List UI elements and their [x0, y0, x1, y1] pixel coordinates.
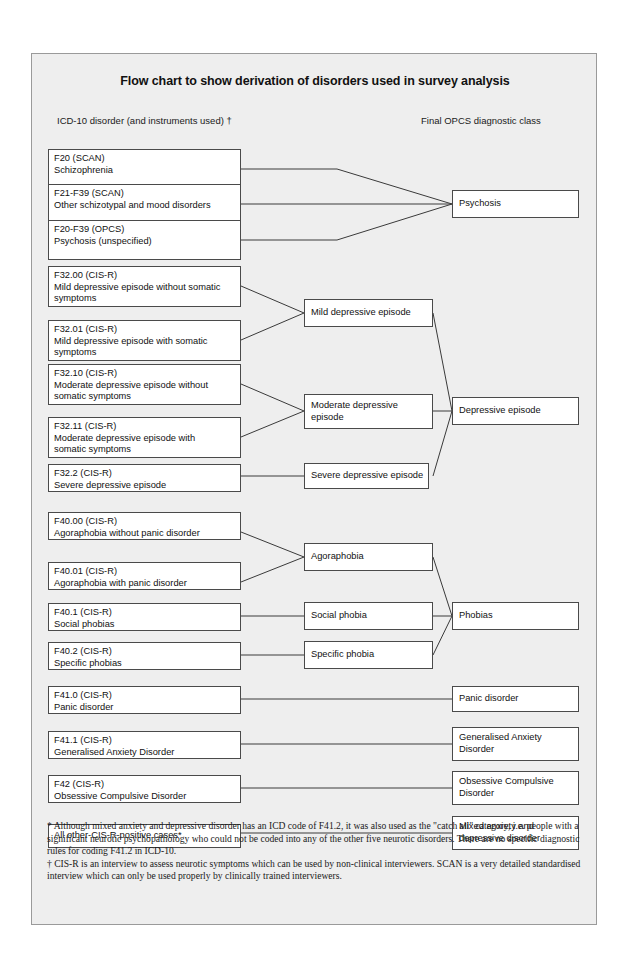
node-f4000[interactable]: F40.00 (CIS-R) Agoraphobia without panic…	[48, 512, 241, 540]
node-severe-depressive-episode[interactable]: Severe depressive episode	[304, 463, 429, 489]
figure-panel: Flow chart to show derivation of disorde…	[31, 53, 597, 925]
node-f42[interactable]: F42 (CIS-R) Obsessive Compulsive Disorde…	[48, 775, 241, 803]
node-label: Panic disorder	[459, 693, 518, 705]
node-f21f39[interactable]: F21-F39 (SCAN) Other schizotypal and moo…	[48, 184, 241, 224]
node-label: Agoraphobia	[311, 551, 364, 563]
node-label: Severe depressive episode	[311, 470, 423, 482]
node-f401[interactable]: F40.1 (CIS-R) Social phobias	[48, 603, 241, 631]
node-f20f39[interactable]: F20-F39 (OPCS) Psychosis (unspecified)	[48, 220, 241, 260]
node-f411[interactable]: F41.1 (CIS-R) Generalised Anxiety Disord…	[48, 731, 241, 759]
node-label: Generalised Anxiety Disorder	[459, 732, 542, 755]
node-f322[interactable]: F32.2 (CIS-R) Severe depressive episode	[48, 464, 241, 492]
node-f3211[interactable]: F32.11 (CIS-R) Moderate depressive episo…	[48, 417, 241, 458]
node-moderate-depressive-episode[interactable]: Moderate depressive episode	[304, 394, 433, 429]
node-psychosis[interactable]: Psychosis	[452, 190, 579, 218]
node-label: Moderate depressive episode	[311, 400, 398, 423]
node-label: Specific phobia	[311, 649, 374, 661]
node-f402[interactable]: F40.2 (CIS-R) Specific phobias	[48, 642, 241, 670]
node-label: Phobias	[459, 610, 493, 622]
node-f3210[interactable]: F32.10 (CIS-R) Moderate depressive episo…	[48, 364, 241, 405]
page-title: Flow chart to show derivation of disorde…	[32, 74, 598, 88]
column-header-left: ICD-10 disorder (and instruments used) †	[57, 115, 232, 126]
node-f3200[interactable]: F32.00 (CIS-R) Mild depressive episode w…	[48, 266, 241, 307]
column-header-right: Final OPCS diagnostic class	[421, 115, 541, 126]
node-label: Obsessive Compulsive Disorder	[459, 776, 554, 799]
node-f4001[interactable]: F40.01 (CIS-R) Agoraphobia with panic di…	[48, 562, 241, 590]
node-f20[interactable]: F20 (SCAN) Schizophrenia	[48, 149, 241, 189]
node-mild-depressive-episode[interactable]: Mild depressive episode	[304, 299, 433, 327]
node-f410[interactable]: F41.0 (CIS-R) Panic disorder	[48, 686, 241, 714]
node-label: Psychosis	[459, 198, 501, 210]
footnote-star: * Although mixed anxiety and depressive …	[47, 820, 583, 858]
node-label: Social phobia	[311, 610, 367, 622]
node-agoraphobia[interactable]: Agoraphobia	[304, 543, 433, 571]
node-depressive-episode[interactable]: Depressive episode	[452, 397, 579, 425]
node-label: Mild depressive episode	[311, 307, 411, 319]
footnotes: * Although mixed anxiety and depressive …	[47, 820, 583, 883]
node-phobias[interactable]: Phobias	[452, 602, 579, 630]
node-label: Depressive episode	[459, 405, 541, 417]
node-generalised-anxiety-disorder[interactable]: Generalised Anxiety Disorder	[452, 727, 579, 761]
node-specific-phobia[interactable]: Specific phobia	[304, 641, 433, 669]
node-social-phobia[interactable]: Social phobia	[304, 602, 433, 630]
node-panic-disorder[interactable]: Panic disorder	[452, 686, 579, 712]
node-f3201[interactable]: F32.01 (CIS-R) Mild depressive episode w…	[48, 320, 241, 361]
footnote-dagger: † CIS-R is an interview to assess neurot…	[47, 858, 583, 883]
node-obsessive-compulsive-disorder[interactable]: Obsessive Compulsive Disorder	[452, 771, 579, 805]
